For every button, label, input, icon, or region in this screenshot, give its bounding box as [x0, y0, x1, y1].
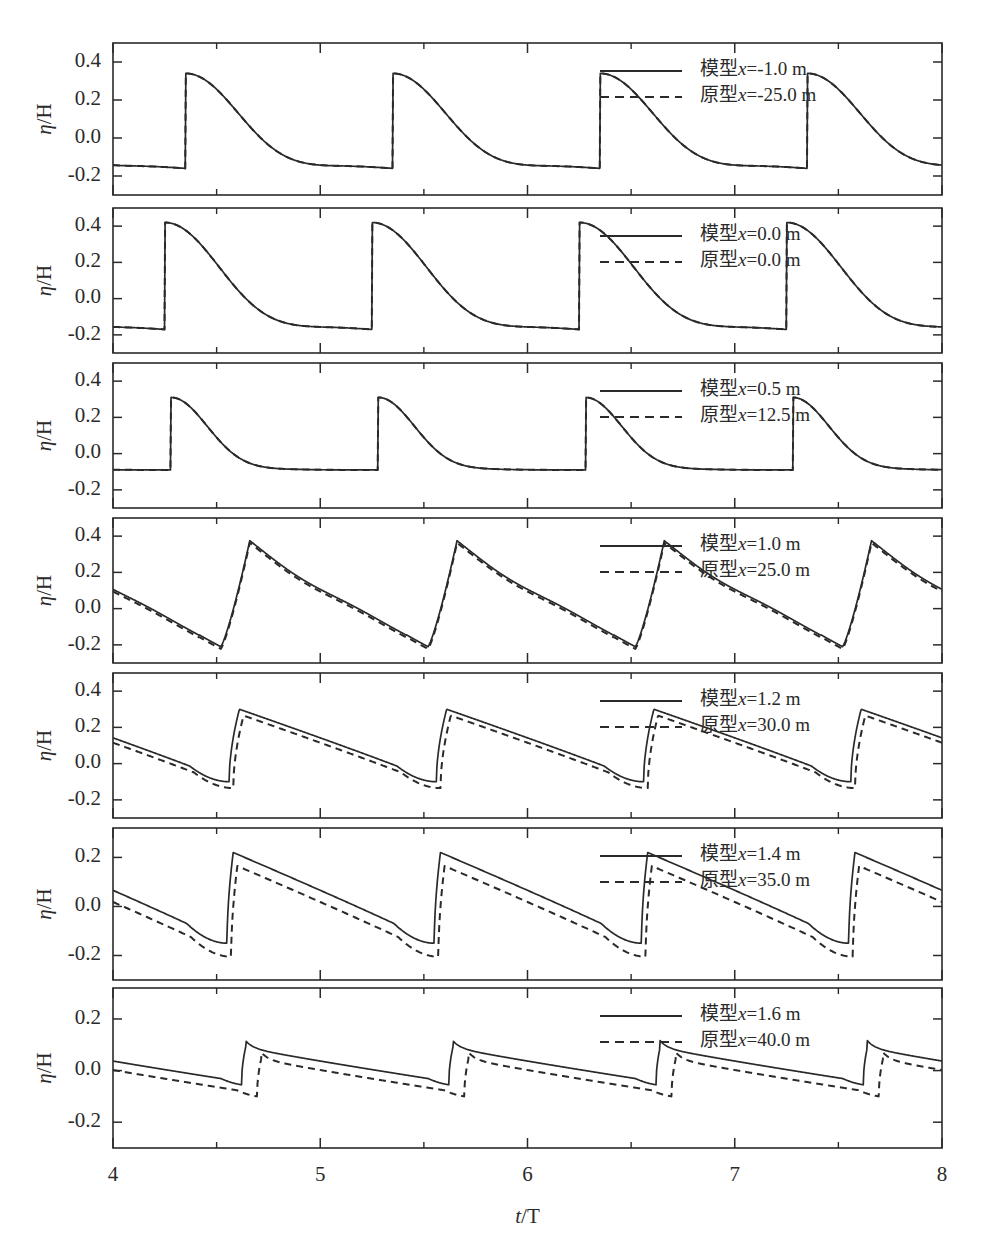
legend-label: 模型x=1.4 m — [700, 843, 801, 864]
y-tick-label: 0.2 — [75, 86, 101, 110]
panel-legend: 模型x=-1.0 m原型x=-25.0 m — [600, 58, 816, 105]
y-tick-label: 0.0 — [75, 439, 101, 463]
y-tick-label: 0.2 — [75, 403, 101, 427]
y-tick-label: -0.2 — [68, 321, 101, 345]
panel-4: 0.40.20.0-0.2η/H模型x=1.0 m原型x=25.0 m — [32, 518, 942, 663]
legend-label: 模型x=1.6 m — [700, 1003, 801, 1024]
panel-frame — [113, 828, 942, 980]
y-tick-label: 0.2 — [75, 558, 101, 582]
legend-label: 模型x=1.0 m — [700, 533, 801, 554]
series-line-dashed — [113, 716, 942, 788]
series-line-dashed — [113, 397, 942, 470]
y-tick-label: 0.4 — [75, 48, 102, 72]
series-group — [113, 853, 942, 957]
y-tick-label: 0.0 — [75, 594, 101, 618]
series-group — [113, 1041, 942, 1097]
panel-7: 0.20.0-0.2η/H模型x=1.6 m原型x=40.0 m — [32, 988, 942, 1148]
series-line-solid — [113, 541, 942, 647]
x-tick-label: 6 — [522, 1162, 533, 1186]
panel-frame — [113, 208, 942, 353]
legend-label: 原型x=30.0 m — [700, 714, 810, 735]
chart-canvas: 0.40.20.0-0.2η/H模型x=-1.0 m原型x=-25.0 m0.4… — [0, 0, 986, 1255]
x-tick-label: 7 — [730, 1162, 741, 1186]
series-line-solid — [113, 1041, 942, 1085]
y-tick-label: -0.2 — [68, 941, 101, 965]
y-tick-label: -0.2 — [68, 162, 101, 186]
y-tick-label: 0.0 — [75, 284, 101, 308]
x-axis-title: t/T — [515, 1204, 540, 1228]
y-axis-title: η/H — [32, 730, 56, 761]
legend-label: 原型x=40.0 m — [700, 1029, 810, 1050]
series-line-solid — [113, 397, 942, 470]
series-group — [113, 709, 942, 788]
y-tick-label: -0.2 — [68, 476, 101, 500]
panel-legend: 模型x=1.4 m原型x=35.0 m — [600, 843, 810, 890]
panel-legend: 模型x=1.6 m原型x=40.0 m — [600, 1003, 810, 1050]
legend-label: 原型x=35.0 m — [700, 869, 810, 890]
y-axis-title: η/H — [32, 265, 56, 296]
x-tick-label: 8 — [937, 1162, 948, 1186]
y-tick-label: -0.2 — [68, 631, 101, 655]
x-tick-label: 5 — [315, 1162, 326, 1186]
wave-timeseries-figure: 0.40.20.0-0.2η/H模型x=-1.0 m原型x=-25.0 m0.4… — [0, 0, 986, 1255]
series-line-solid — [113, 223, 942, 330]
y-tick-label: 0.0 — [75, 1056, 101, 1080]
x-tick-label: 4 — [108, 1162, 119, 1186]
panel-6: 0.20.0-0.2η/H模型x=1.4 m原型x=35.0 m — [32, 828, 942, 980]
y-axis-title: η/H — [32, 1052, 56, 1083]
panel-frame — [113, 43, 942, 195]
legend-label: 模型x=1.2 m — [700, 688, 801, 709]
y-tick-label: -0.2 — [68, 786, 101, 810]
y-tick-label: 0.2 — [75, 248, 101, 272]
legend-label: 原型x=0.0 m — [700, 249, 801, 270]
y-axis-title: η/H — [32, 420, 56, 451]
y-tick-label: 0.0 — [75, 749, 101, 773]
y-tick-label: 0.2 — [75, 1005, 101, 1029]
y-tick-label: 0.4 — [75, 677, 102, 701]
y-tick-label: -0.2 — [68, 1108, 101, 1132]
legend-label: 原型x=12.5 m — [700, 404, 810, 425]
y-tick-label: 0.4 — [75, 522, 102, 546]
legend-label: 原型x=25.0 m — [700, 559, 810, 580]
series-line-solid — [113, 73, 942, 168]
panel-legend: 模型x=1.2 m原型x=30.0 m — [600, 688, 810, 735]
panel-legend: 模型x=1.0 m原型x=25.0 m — [600, 533, 810, 580]
series-group — [113, 397, 942, 470]
legend-label: 模型x=0.5 m — [700, 378, 801, 399]
panel-1: 0.40.20.0-0.2η/H模型x=-1.0 m原型x=-25.0 m — [32, 43, 942, 195]
series-group — [113, 223, 942, 330]
panel-frame — [113, 988, 942, 1148]
panel-frame — [113, 363, 942, 508]
x-axis: 45678t/T — [108, 1162, 948, 1228]
panel-3: 0.40.20.0-0.2η/H模型x=0.5 m原型x=12.5 m — [32, 363, 942, 508]
panel-5: 0.40.20.0-0.2η/H模型x=1.2 m原型x=30.0 m — [32, 673, 942, 818]
series-line-dashed — [113, 866, 942, 957]
y-tick-label: 0.0 — [75, 124, 101, 148]
panel-2: 0.40.20.0-0.2η/H模型x=0.0 m原型x=0.0 m — [32, 208, 942, 353]
legend-label: 原型x=-25.0 m — [700, 84, 816, 105]
y-tick-label: 0.2 — [75, 843, 101, 867]
y-axis-title: η/H — [32, 103, 56, 134]
y-tick-label: 0.2 — [75, 713, 101, 737]
y-axis-title: η/H — [32, 575, 56, 606]
series-group — [113, 73, 942, 168]
y-tick-label: 0.4 — [75, 212, 102, 236]
legend-label: 模型x=0.0 m — [700, 223, 801, 244]
y-tick-label: 0.4 — [75, 367, 102, 391]
y-tick-label: 0.0 — [75, 892, 101, 916]
legend-label: 模型x=-1.0 m — [700, 58, 807, 79]
series-group — [113, 541, 942, 649]
series-line-dashed — [113, 73, 942, 168]
panel-legend: 模型x=0.5 m原型x=12.5 m — [600, 378, 810, 425]
y-axis-title: η/H — [32, 888, 56, 919]
